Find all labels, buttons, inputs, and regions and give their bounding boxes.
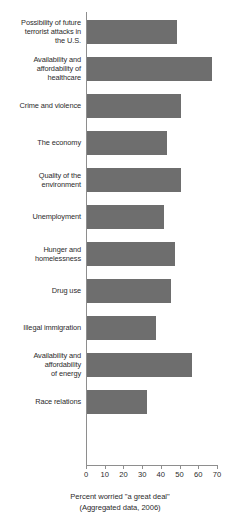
- x-axis: 010203040506070: [0, 465, 240, 485]
- chart-captions: Percent worried "a great deal" (Aggregat…: [0, 492, 240, 513]
- bar: [87, 131, 167, 155]
- bar: [87, 20, 177, 44]
- bar: [87, 57, 212, 81]
- x-tick: [86, 465, 87, 469]
- bar-category-label: Availability andaffordabilityof energy: [3, 351, 81, 378]
- x-tick: [105, 465, 106, 469]
- bar-row: Illegal immigration: [0, 316, 240, 340]
- bar-row: Quality of theenvironment: [0, 168, 240, 192]
- bar-category-label: Quality of theenvironment: [3, 171, 81, 189]
- bar-row: The economy: [0, 131, 240, 155]
- x-tick: [217, 465, 218, 469]
- bar: [87, 279, 171, 303]
- x-tick: [180, 465, 181, 469]
- bar-category-label: Illegal immigration: [3, 323, 81, 332]
- x-tick: [161, 465, 162, 469]
- bar-category-label: Possibility of futureterrorist attacks i…: [3, 18, 81, 45]
- bar-category-label: Drug use: [3, 286, 81, 295]
- x-tick: [142, 465, 143, 469]
- bar-category-label: Availability andaffordability ofhealthca…: [3, 55, 81, 82]
- bar: [87, 242, 175, 266]
- bar-chart: Possibility of futureterrorist attacks i…: [0, 0, 240, 528]
- plot-area: Possibility of futureterrorist attacks i…: [0, 0, 240, 470]
- bar-category-label: The economy: [3, 138, 81, 147]
- bar-row: Unemployment: [0, 205, 240, 229]
- bar-row: Crime and violence: [0, 94, 240, 118]
- chart-source-note: (Aggregated data, 2006): [0, 503, 240, 514]
- x-axis-title: Percent worried "a great deal": [0, 492, 240, 503]
- bar-category-label: Unemployment: [3, 212, 81, 221]
- bar: [87, 390, 147, 414]
- bar: [87, 168, 181, 192]
- bar-row: Availability andaffordabilityof energy: [0, 353, 240, 377]
- bar: [87, 205, 164, 229]
- bar: [87, 353, 192, 377]
- x-tick-label: 70: [205, 470, 229, 479]
- bar: [87, 316, 156, 340]
- bar-row: Race relations: [0, 390, 240, 414]
- bar: [87, 94, 181, 118]
- bar-row: Drug use: [0, 279, 240, 303]
- bar-row: Availability andaffordability ofhealthca…: [0, 57, 240, 81]
- bar-row: Hunger andhomelessness: [0, 242, 240, 266]
- bar-row: Possibility of futureterrorist attacks i…: [0, 20, 240, 44]
- x-tick: [198, 465, 199, 469]
- bar-category-label: Race relations: [3, 397, 81, 406]
- x-tick: [123, 465, 124, 469]
- bar-category-label: Crime and violence: [3, 101, 81, 110]
- bar-category-label: Hunger andhomelessness: [3, 245, 81, 263]
